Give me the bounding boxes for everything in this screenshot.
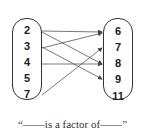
relation-caption: “——is a factor of——” xyxy=(0,118,145,130)
arrow-2-to-8 xyxy=(42,32,102,64)
mapping-arrows xyxy=(0,0,145,132)
arrow-diagram: 2 3 4 5 7 6 7 8 9 11 “——is a factor of——… xyxy=(0,0,145,132)
arrow-2-to-6 xyxy=(42,31,102,32)
arrow-7-to-7 xyxy=(42,48,102,95)
arrow-3-to-9 xyxy=(42,47,102,79)
arrow-3-to-6 xyxy=(42,33,102,48)
